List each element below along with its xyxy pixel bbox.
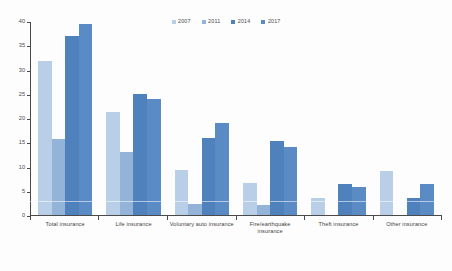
category-label: Life insurance bbox=[99, 221, 167, 236]
bar-2011[interactable] bbox=[257, 22, 271, 215]
category-label: Theft insurance bbox=[304, 221, 372, 236]
bar-2007[interactable] bbox=[311, 22, 325, 215]
y-tick-label: 20 bbox=[19, 116, 25, 122]
y-tick-label: 15 bbox=[19, 140, 25, 146]
bar-fill bbox=[106, 112, 120, 215]
bar-fill bbox=[202, 138, 216, 215]
bar-2011[interactable] bbox=[188, 22, 202, 215]
bar-group bbox=[31, 22, 99, 215]
y-tick-label: 25 bbox=[19, 92, 25, 98]
bar-2017[interactable] bbox=[284, 22, 298, 215]
bar-2011[interactable] bbox=[52, 22, 66, 215]
bar-2007[interactable] bbox=[243, 22, 257, 215]
x-tick-mark bbox=[167, 215, 168, 220]
y-tick-label: 40 bbox=[19, 19, 25, 25]
y-tick-label: 5 bbox=[22, 189, 25, 195]
y-tick-label: 30 bbox=[19, 68, 25, 74]
bar-2014[interactable] bbox=[407, 22, 421, 215]
category-label: Other insurance bbox=[373, 221, 441, 236]
bar-fill bbox=[270, 141, 284, 215]
bar-fill bbox=[257, 205, 271, 215]
bar-group bbox=[168, 22, 236, 215]
bar-fill bbox=[120, 152, 134, 215]
bar-2007[interactable] bbox=[106, 22, 120, 215]
bar-fill bbox=[338, 184, 352, 214]
bar-fill bbox=[147, 99, 161, 215]
bar-fill bbox=[243, 183, 257, 215]
bar-fill bbox=[65, 36, 79, 214]
bar-2014[interactable] bbox=[133, 22, 147, 215]
bar-group bbox=[304, 22, 372, 215]
bar-chart: 2007201120142017 0510152025303540 Total … bbox=[0, 0, 452, 271]
bar-fill bbox=[52, 139, 66, 215]
bar-fill bbox=[420, 184, 434, 214]
bar-2011[interactable] bbox=[120, 22, 134, 215]
x-tick-mark bbox=[236, 215, 237, 220]
bar-fill bbox=[407, 198, 421, 215]
bar-2014[interactable] bbox=[338, 22, 352, 215]
bar-2011[interactable] bbox=[393, 22, 407, 215]
bar-2017[interactable] bbox=[215, 22, 229, 215]
bar-fill bbox=[284, 147, 298, 214]
bar-2014[interactable] bbox=[65, 22, 79, 215]
bar-2014[interactable] bbox=[270, 22, 284, 215]
bar-group bbox=[99, 22, 167, 215]
bar-group bbox=[373, 22, 441, 215]
category-label: Voluntary auto insurance bbox=[168, 221, 236, 236]
bar-2017[interactable] bbox=[420, 22, 434, 215]
bar-fill bbox=[380, 171, 394, 215]
category-label: Total insurance bbox=[31, 221, 99, 236]
bar-group bbox=[236, 22, 304, 215]
bar-2007[interactable] bbox=[38, 22, 52, 215]
x-tick-mark bbox=[98, 215, 99, 220]
bar-2011[interactable] bbox=[325, 22, 339, 215]
bar-fill bbox=[352, 187, 366, 215]
bar-fill bbox=[79, 24, 93, 214]
bar-groups bbox=[31, 22, 441, 215]
bar-fill bbox=[175, 170, 189, 214]
bar-2007[interactable] bbox=[175, 22, 189, 215]
bar-fill bbox=[188, 204, 202, 215]
bar-fill bbox=[215, 123, 229, 215]
bar-2007[interactable] bbox=[380, 22, 394, 215]
y-tick-label: 0 bbox=[22, 213, 25, 219]
plot-area: 0510152025303540 bbox=[30, 22, 441, 216]
bar-2014[interactable] bbox=[202, 22, 216, 215]
y-tick-label: 35 bbox=[19, 43, 25, 49]
bar-2017[interactable] bbox=[147, 22, 161, 215]
bar-fill bbox=[38, 61, 52, 215]
bar-fill bbox=[133, 94, 147, 214]
x-tick-mark bbox=[373, 215, 374, 220]
bar-fill bbox=[311, 198, 325, 214]
x-tick-mark bbox=[30, 215, 31, 220]
category-label: Fire/earthquake insurance bbox=[236, 221, 304, 236]
y-tick-label: 10 bbox=[19, 165, 25, 171]
x-tick-mark bbox=[441, 215, 442, 220]
category-labels: Total insuranceLife insuranceVoluntary a… bbox=[31, 221, 441, 236]
x-tick-mark bbox=[304, 215, 305, 220]
bar-2017[interactable] bbox=[79, 22, 93, 215]
bar-2017[interactable] bbox=[352, 22, 366, 215]
